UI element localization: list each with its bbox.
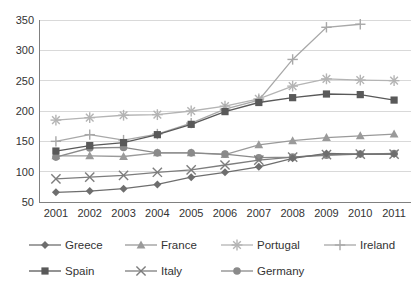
marker-square [289,94,296,101]
circle-icon [220,263,254,279]
legend-item-italy[interactable]: Italy [124,263,220,279]
y-tick-label: 350 [16,14,34,26]
x-tick-label: 2009 [314,207,338,219]
x-tick-label: 2001 [44,207,68,219]
legend-item-greece[interactable]: Greece [28,237,124,253]
triangle-icon [124,237,158,253]
marker-square [221,108,228,115]
plus-icon [323,237,357,253]
legend-label: Portugal [254,239,300,251]
y-tick-label: 300 [16,44,34,56]
legend-item-germany[interactable]: Germany [220,263,330,279]
y-tick-label: 50 [22,196,34,208]
marker-circle [221,150,229,158]
x-tick-label: 2010 [348,207,372,219]
chart-legend: GreeceFrancePortugalIrelandSpainItalyGer… [28,232,413,284]
x-tick-label: 2002 [77,207,101,219]
marker-square [357,91,364,98]
marker-square [52,147,59,154]
cross-icon [124,263,158,279]
y-tick-label: 250 [16,75,34,87]
legend-label: Germany [254,265,304,277]
legend-label: Greece [62,239,103,251]
diamond-icon [28,237,62,253]
x-tick-label: 2007 [247,207,271,219]
line-chart: 5010015020025030035020012002200320042005… [0,0,419,289]
legend-item-portugal[interactable]: Portugal [220,237,323,253]
marker-square [120,139,127,146]
legend-label: Ireland [357,239,395,251]
x-tick-label: 2008 [280,207,304,219]
y-tick-label: 150 [16,135,34,147]
legend-row: SpainItalyGermany [28,258,413,284]
marker-square [390,96,397,103]
marker-square [41,267,48,274]
x-tick-label: 2003 [111,207,135,219]
marker-square [188,121,195,128]
legend-label: Spain [62,265,94,277]
asterisk-icon [220,237,254,253]
legend-label: France [158,239,197,251]
marker-square [255,99,262,106]
x-tick-label: 2004 [145,207,169,219]
y-tick-label: 100 [16,166,34,178]
legend-item-france[interactable]: France [124,237,220,253]
marker-diamond [41,241,49,249]
legend-row: GreeceFrancePortugalIreland [28,232,413,258]
marker-circle [154,149,162,157]
marker-circle [233,267,241,275]
legend-item-ireland[interactable]: Ireland [323,237,413,253]
marker-square [323,90,330,97]
x-tick-label: 2006 [213,207,237,219]
marker-square [86,142,93,149]
legend-item-spain[interactable]: Spain [28,263,124,279]
marker-circle [187,149,195,157]
legend-label: Italy [158,265,182,277]
x-tick-label: 2005 [179,207,203,219]
square-icon [28,263,62,279]
marker-square [154,131,161,138]
x-tick-label: 2011 [382,207,406,219]
y-tick-label: 200 [16,105,34,117]
